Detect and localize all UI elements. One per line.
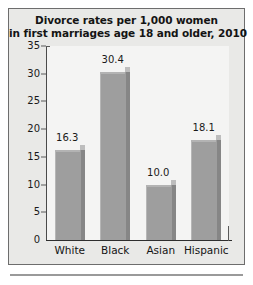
- y-axis-tick-label: 0: [34, 235, 40, 245]
- bar-top-face: [55, 150, 80, 152]
- bar-series: 16.330.410.018.1: [47, 46, 229, 240]
- bar-hispanic: [191, 135, 221, 240]
- x-axis-category-labels: WhiteBlackAsianHispanic: [47, 243, 229, 259]
- bar-top-bevel: [171, 180, 176, 185]
- bar-value-label: 16.3: [56, 132, 78, 143]
- y-axis-tick-label: 20: [27, 124, 40, 134]
- bar-top-face: [100, 72, 125, 74]
- y-axis-tick-labels: 05101520253035: [18, 44, 40, 256]
- bar-top-face: [146, 185, 171, 187]
- chart-title-line-2: in first marriages age 18 and older, 201…: [9, 27, 244, 40]
- chart-panel: Divorce rates per 1,000 women in first m…: [8, 8, 245, 265]
- y-axis-tick-label: 30: [27, 69, 40, 79]
- bar-value-label: 30.4: [102, 54, 124, 65]
- x-axis-line: [46, 240, 232, 241]
- bar-top-bevel: [125, 67, 130, 72]
- bottom-divider: [10, 274, 243, 276]
- bar-front-face: [100, 72, 126, 241]
- chart-title: Divorce rates per 1,000 women in first m…: [9, 14, 244, 40]
- y-axis-tick-label: 35: [27, 41, 40, 51]
- x-axis-label-black: Black: [101, 244, 129, 256]
- bar-value-label: 10.0: [147, 167, 169, 178]
- bar-top-face: [191, 140, 216, 142]
- y-axis-tick-label: 15: [27, 152, 40, 162]
- bar-white: [55, 145, 85, 240]
- chart-figure: Divorce rates per 1,000 women in first m…: [0, 0, 253, 285]
- bar-front-face: [191, 140, 217, 240]
- x-axis-label-asian: Asian: [146, 244, 175, 256]
- bar-value-label: 18.1: [193, 122, 215, 133]
- bar-front-face: [55, 150, 81, 240]
- bar-black: [100, 67, 130, 241]
- y-axis-tick-label: 10: [27, 180, 40, 190]
- y-axis-tick-label: 25: [27, 96, 40, 106]
- plot-area: 05101520253035 16.330.410.018.1 WhiteBla…: [18, 44, 237, 256]
- chart-title-line-1: Divorce rates per 1,000 women: [9, 14, 244, 27]
- bar-asian: [146, 180, 176, 240]
- bar-top-bevel: [216, 135, 221, 140]
- x-axis-label-white: White: [54, 244, 85, 256]
- bar-top-bevel: [80, 145, 85, 150]
- x-axis-label-hispanic: Hispanic: [184, 244, 229, 256]
- bar-front-face: [146, 185, 172, 240]
- y-axis-tick-label: 5: [34, 207, 40, 217]
